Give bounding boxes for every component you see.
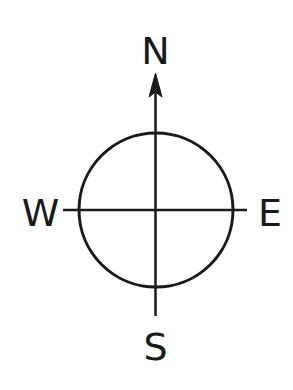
compass-rose-diagram: N W E S bbox=[0, 0, 293, 390]
south-label: S bbox=[143, 325, 167, 369]
west-label: W bbox=[22, 191, 60, 235]
east-label: E bbox=[258, 191, 282, 235]
north-label: N bbox=[141, 29, 169, 73]
